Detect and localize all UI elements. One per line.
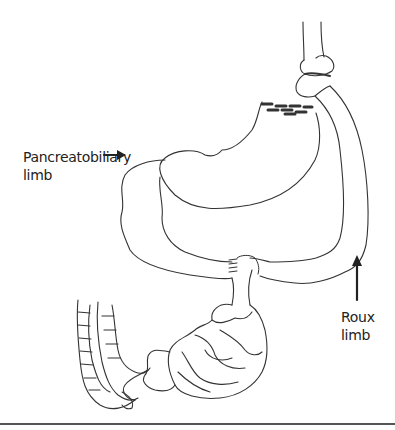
staple-line [262,104,312,114]
roux-limb-label: Roux limb [341,308,375,344]
bottom-divider [0,423,395,425]
gastric-pouch [296,56,334,97]
small-intestine [123,304,267,400]
common-channel [232,270,252,305]
anatomy-drawing [0,0,395,430]
label-line: limb [23,166,131,184]
bypassed-stomach [160,102,320,209]
roux-limb [250,86,368,283]
pancreatobiliary-limb [121,160,232,279]
gastric-bypass-diagram: Pancreatobiliary limb Roux limb [0,0,395,430]
esophagus [303,22,324,60]
label-line: Pancreatobiliary [23,148,131,166]
label-line: limb [341,326,375,344]
colon [77,300,150,409]
label-line: Roux [341,308,375,326]
pancreatobiliary-limb-label: Pancreatobiliary limb [23,148,131,184]
